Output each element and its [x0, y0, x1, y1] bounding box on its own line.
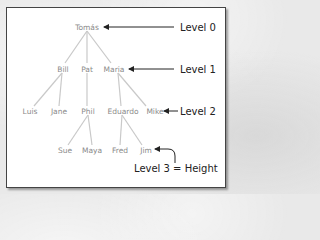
label-level0: Level 0	[180, 22, 216, 33]
tree-edges	[34, 31, 146, 145]
node-bill: Bill	[57, 65, 68, 74]
node-phil: Phil	[81, 107, 94, 116]
tree-diagram: Tomás Bill Pat Maria Luis Jane Phil Edua…	[0, 0, 230, 194]
node-fred: Fred	[112, 146, 128, 155]
node-sue: Sue	[58, 146, 73, 155]
node-tomas: Tomás	[74, 23, 99, 32]
node-maya: Maya	[82, 146, 102, 155]
node-mike: Mike	[146, 107, 164, 116]
label-level2: Level 2	[180, 106, 216, 117]
node-pat: Pat	[81, 65, 93, 74]
label-level3-height: Level 3 = Height	[134, 163, 218, 174]
node-luis: Luis	[23, 107, 38, 116]
node-jane: Jane	[50, 107, 68, 116]
node-eduardo: Eduardo	[107, 107, 139, 116]
label-level1: Level 1	[180, 64, 216, 75]
arrow-level3-icon	[155, 149, 175, 163]
node-maria: Maria	[104, 65, 125, 74]
node-jim: Jim	[139, 146, 152, 155]
